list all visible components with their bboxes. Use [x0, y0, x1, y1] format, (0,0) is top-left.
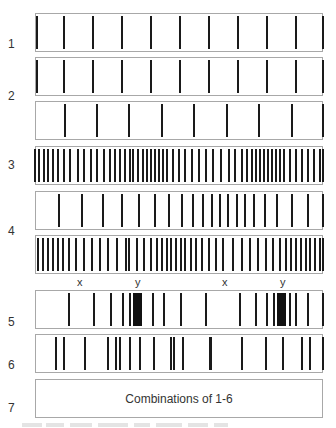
pulse-bar	[92, 16, 94, 49]
pulse-bar	[295, 293, 297, 326]
pulse-bar	[193, 104, 195, 137]
pulse-bar	[43, 149, 45, 182]
pulse-bar	[93, 293, 95, 326]
pulse-bar	[220, 149, 222, 182]
pulse-bar	[152, 293, 154, 326]
pulse-bar	[246, 149, 248, 182]
pattern-box-5	[35, 290, 323, 329]
pulse-bar	[322, 194, 324, 227]
pulse-bar	[146, 149, 148, 182]
pulse-bar	[170, 238, 172, 271]
pulse-bar	[129, 293, 131, 326]
pulse-bar	[63, 337, 65, 370]
pulse-bar	[241, 337, 243, 370]
pulse-bar	[166, 238, 168, 271]
pulse-bar	[77, 149, 79, 182]
pulse-bar	[291, 104, 293, 137]
pattern-box-1	[35, 13, 323, 52]
pulse-bar	[222, 238, 224, 271]
pulse-bar	[68, 293, 70, 326]
pulse-bar	[115, 337, 117, 370]
row-label-2: 2	[8, 89, 24, 103]
pulse-bar	[103, 149, 105, 182]
pulse-bar	[192, 194, 194, 227]
pulse-bar	[295, 60, 297, 93]
pulse-bar	[34, 149, 36, 182]
pulse-bar	[119, 149, 121, 182]
pattern-box-2a	[35, 57, 323, 96]
pulse-bar	[158, 149, 160, 182]
row-label-6: 6	[8, 358, 24, 372]
pulse-bar	[255, 149, 257, 182]
pulse-bar	[291, 194, 293, 227]
pulse-bar	[142, 149, 144, 182]
pulse-bar	[279, 238, 281, 271]
pulse-bar	[295, 238, 297, 271]
pulse-bar	[84, 337, 86, 370]
pulse-bar	[150, 149, 152, 182]
pulse-bar	[179, 16, 181, 49]
pulse-bar	[182, 337, 184, 370]
pulse-bar	[62, 238, 64, 271]
pulse-bar	[264, 194, 266, 227]
pulse-bar	[153, 337, 155, 370]
pulse-bar	[161, 104, 163, 137]
pulse-bar	[161, 238, 163, 271]
pulse-bar	[300, 238, 302, 271]
pulse-bar	[47, 149, 49, 182]
pulse-bar	[271, 149, 273, 182]
pulse-bar	[92, 60, 94, 93]
pulse-bar	[209, 337, 212, 370]
pulse-bar	[282, 337, 284, 370]
pulse-bar	[132, 149, 134, 182]
pulse-bar	[55, 337, 57, 370]
pattern-box-4b	[35, 235, 323, 274]
pulse-bar	[154, 194, 156, 227]
pulse-bar	[232, 238, 234, 271]
pulse-bar	[322, 149, 324, 182]
pulse-bar	[212, 149, 214, 182]
pattern-box-7: Combinations of 1-6	[35, 379, 323, 418]
pulse-bar	[226, 104, 228, 137]
pulse-bar	[301, 337, 303, 370]
pulse-bar	[191, 149, 193, 182]
pulse-bar	[239, 293, 241, 326]
pulse-bar	[267, 149, 269, 182]
pulse-bar	[63, 149, 65, 182]
pulse-bar	[219, 194, 221, 227]
pulse-bar	[175, 238, 177, 271]
pulse-bar	[259, 149, 261, 182]
row-label-1: 1	[8, 37, 24, 51]
pulse-bar	[255, 293, 257, 326]
pulse-bar	[172, 149, 174, 182]
pulse-bar	[276, 194, 278, 227]
pulse-bar	[38, 149, 40, 182]
pulse-bar	[68, 238, 70, 271]
pulse-bar	[215, 238, 217, 271]
pulse-bar	[322, 16, 324, 49]
cropped-caption-fragment	[156, 423, 182, 427]
pulse-bar	[198, 149, 200, 182]
pulse-bar	[208, 238, 210, 271]
pulse-bar	[83, 149, 85, 182]
pulse-bar	[90, 149, 92, 182]
pulse-bar	[319, 149, 321, 182]
pulse-bar	[313, 149, 315, 182]
pulse-bar	[190, 238, 192, 271]
pulse-bar	[162, 149, 164, 182]
pattern-box-2b	[35, 101, 323, 140]
pulse-burst	[133, 293, 142, 326]
row-label-5: 5	[8, 315, 24, 329]
pulse-bar	[228, 149, 230, 182]
pulse-bar	[314, 238, 316, 271]
pulse-bar	[102, 194, 104, 227]
pulse-bar	[129, 149, 131, 182]
marker-x: x	[222, 276, 228, 288]
pulse-bar	[36, 60, 38, 93]
pulse-bar	[241, 238, 243, 271]
pulse-bar	[178, 149, 180, 182]
pulse-bar	[116, 238, 118, 271]
pulse-bar	[322, 293, 324, 326]
pulse-bar	[179, 60, 181, 93]
pulse-bar	[63, 16, 65, 49]
